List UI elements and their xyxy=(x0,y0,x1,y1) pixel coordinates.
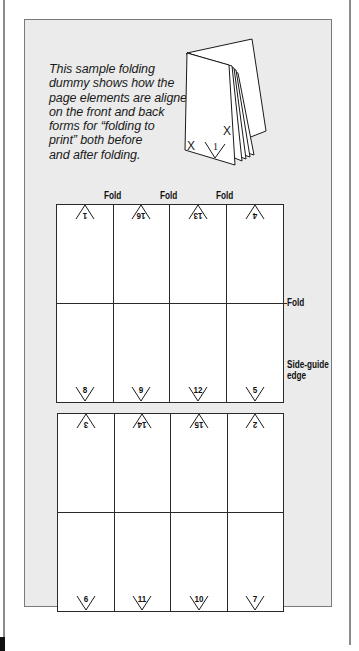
page-marker: 1 xyxy=(70,205,100,225)
back-form-grid xyxy=(57,413,284,612)
page-marker: 12 xyxy=(183,383,213,403)
x-mark-left: X xyxy=(187,139,195,153)
caption-line: forms for “folding to xyxy=(49,119,179,133)
caption-line: print” both before xyxy=(49,133,179,147)
folded-booklet-illustration: X X 1 xyxy=(180,38,270,168)
front-form-grid xyxy=(56,204,284,403)
page-number: 7 xyxy=(242,593,268,604)
fold-label-side: Fold xyxy=(287,297,304,308)
page-marker: 11 xyxy=(127,592,157,612)
page-number: 13 xyxy=(185,211,211,222)
page-marker: 5 xyxy=(240,383,270,403)
page-number: 4 xyxy=(242,211,268,222)
side-guide-label: Side-guide xyxy=(287,359,329,370)
page-number: 6 xyxy=(73,593,99,604)
caption-line: page elements are aligned xyxy=(49,91,179,105)
outer-frame-left xyxy=(3,0,5,651)
page-marker: 6 xyxy=(71,592,101,612)
caption-line: dummy shows how the xyxy=(49,76,179,90)
page-marker: 2 xyxy=(240,414,270,434)
x-mark-right: X xyxy=(223,124,231,138)
page-marker: 10 xyxy=(184,592,214,612)
page-number: 1 xyxy=(72,211,98,222)
page-number: 9 xyxy=(128,384,154,395)
side-guide-label: edge xyxy=(287,370,306,381)
page-marker: 9 xyxy=(126,383,156,403)
page-number: 3 xyxy=(73,420,99,431)
page-number: 5 xyxy=(242,384,268,395)
caption-line: This sample folding xyxy=(49,62,179,76)
page-number: 14 xyxy=(129,420,155,431)
page-marker: 14 xyxy=(127,414,157,434)
fold-line-horizontal xyxy=(57,303,287,304)
corner-block xyxy=(0,637,5,651)
page-marker: 3 xyxy=(71,414,101,434)
page-number: 12 xyxy=(185,384,211,395)
caption-line: and after folding. xyxy=(49,148,179,162)
page-marker: 15 xyxy=(184,414,214,434)
page-number: 16 xyxy=(128,211,154,222)
page-marker: 7 xyxy=(240,592,270,612)
page-marker: 4 xyxy=(240,205,270,225)
fold-label-1: Fold xyxy=(104,190,121,201)
page-number: 11 xyxy=(129,593,155,604)
page-number: 10 xyxy=(186,593,212,604)
outer-frame-right xyxy=(349,0,351,645)
page-number-1: 1 xyxy=(213,141,218,152)
page-number: 2 xyxy=(242,420,268,431)
page-number: 15 xyxy=(186,420,212,431)
page-number: 8 xyxy=(72,384,98,395)
caption: This sample folding dummy shows how the … xyxy=(49,62,179,162)
fold-line-horizontal xyxy=(58,512,283,513)
page-marker: 8 xyxy=(70,383,100,403)
page-marker: 13 xyxy=(183,205,213,225)
page-marker: 16 xyxy=(126,205,156,225)
caption-line: on the front and back xyxy=(49,105,179,119)
fold-label-3: Fold xyxy=(216,190,233,201)
fold-label-2: Fold xyxy=(160,190,177,201)
